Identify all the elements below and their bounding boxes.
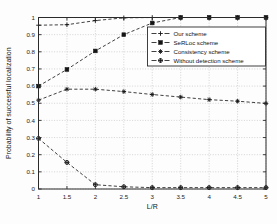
x-tick-label: 4.5	[233, 193, 242, 200]
y-tick-label: 0.9	[26, 31, 35, 38]
x-tick-label: 1	[37, 193, 41, 200]
y-tick-label: 0.7	[26, 65, 35, 72]
data-point-asterisk	[150, 92, 155, 97]
legend-label: Consistency scheme	[174, 48, 231, 55]
data-point-square	[150, 21, 154, 25]
series-2	[36, 87, 268, 106]
x-tick-label: 4	[207, 193, 211, 200]
asterisk-icon	[158, 49, 163, 54]
x-tick-label: 2	[94, 193, 98, 200]
data-point-square	[65, 68, 69, 72]
legend-label: Our scheme	[174, 30, 208, 37]
data-point-asterisk	[235, 99, 240, 104]
data-point-asterisk	[93, 87, 98, 92]
line-chart: 11.522.533.544.5500.10.20.30.40.50.60.70…	[0, 0, 277, 224]
data-point-square	[94, 49, 98, 53]
y-tick-label: 0.3	[26, 134, 35, 141]
legend-label: Without detection scheme	[174, 57, 245, 64]
y-tick-label: 1	[32, 14, 36, 21]
data-point-asterisk	[178, 95, 183, 100]
data-point-asterisk	[65, 87, 70, 92]
y-tick-label: 0.1	[26, 168, 35, 175]
square-icon	[159, 41, 163, 45]
data-point-square	[122, 33, 126, 37]
x-tick-label: 3.5	[176, 193, 185, 200]
hexagram-icon	[158, 58, 163, 63]
x-tick-label: 1.5	[63, 193, 72, 200]
data-point-asterisk	[122, 89, 127, 94]
x-axis-title: L/R	[147, 203, 158, 210]
x-tick-label: 3	[151, 193, 155, 200]
y-tick-label: 0	[32, 185, 36, 192]
chart-legend[interactable]: Our schemeSeRLoc schemeConsistency schem…	[148, 27, 266, 66]
chart-figure: 11.522.533.544.5500.10.20.30.40.50.60.70…	[0, 0, 277, 224]
y-axis-title: Probability of successful localization	[5, 47, 13, 159]
y-tick-label: 0.2	[26, 151, 35, 158]
y-tick-label: 0.5	[26, 99, 35, 106]
data-point-asterisk	[207, 97, 212, 102]
legend-label: SeRLoc scheme	[174, 39, 219, 46]
y-tick-label: 0.8	[26, 48, 35, 55]
data-point-hexagram	[65, 160, 70, 165]
data-point-plus	[65, 22, 70, 27]
y-tick-label: 0.4	[26, 117, 35, 124]
x-tick-label: 5	[264, 193, 268, 200]
y-tick-label: 0.6	[26, 82, 35, 89]
x-tick-label: 2.5	[120, 193, 129, 200]
